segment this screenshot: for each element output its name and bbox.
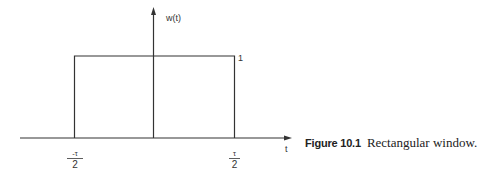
right-tick-label: τ 2 <box>229 149 240 170</box>
rectangular-window-plot: w(t) 1 t -τ 2 τ 2 <box>0 0 481 178</box>
t-axis-arrowhead-icon <box>284 136 292 141</box>
y-axis-label: w(t) <box>165 13 181 23</box>
figure-caption: Figure 10.1Rectangular window. <box>305 133 477 151</box>
left-tick-numerator: -τ <box>72 149 77 158</box>
level-label: 1 <box>238 53 243 63</box>
x-axis-label: t <box>285 144 288 154</box>
rectangular-pulse <box>75 56 235 138</box>
caption-text: Rectangular window. <box>367 135 477 150</box>
caption-label: Figure 10.1 <box>305 137 361 149</box>
left-tick-label: -τ 2 <box>67 149 83 170</box>
right-tick-numerator: τ <box>233 149 236 158</box>
left-tick-denominator: 2 <box>72 159 78 170</box>
right-tick-denominator: 2 <box>232 159 238 170</box>
w-axis-arrowhead-icon <box>151 7 156 15</box>
